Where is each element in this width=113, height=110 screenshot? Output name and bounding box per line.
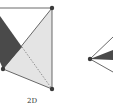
figure-caption: 2D xyxy=(22,97,42,105)
node-left xyxy=(1,67,5,71)
dark-wedge xyxy=(90,50,113,60)
lower-ray xyxy=(90,59,113,72)
node-bottom-right xyxy=(50,87,54,91)
node-center xyxy=(88,57,92,61)
right-diagram xyxy=(88,37,113,72)
node-top-right xyxy=(50,6,54,10)
left-diagram xyxy=(0,6,54,91)
diagram-figure xyxy=(0,0,113,110)
